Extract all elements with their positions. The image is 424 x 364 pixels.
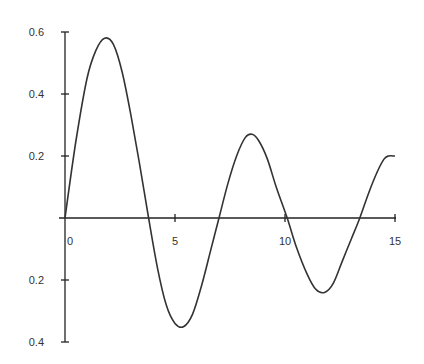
y-axis (61, 32, 69, 342)
line-chart: 0.60.40.20.20.4 051015 (0, 0, 424, 364)
y-tick-label: 0.4 (29, 88, 44, 100)
y-tick-label: 0.2 (29, 274, 44, 286)
y-tick-label: 0.6 (29, 26, 44, 38)
y-tick-labels: 0.60.40.20.20.4 (29, 26, 44, 348)
x-tick-label: 15 (389, 235, 401, 247)
x-axis (59, 214, 396, 222)
series-line (65, 38, 395, 327)
x-tick-label: 5 (172, 235, 178, 247)
y-tick-label: 0.2 (29, 150, 44, 162)
y-tick-label: 0.4 (29, 336, 44, 348)
x-tick-label: 10 (279, 235, 291, 247)
x-tick-label: 0 (67, 235, 73, 247)
plot-series (65, 38, 395, 327)
